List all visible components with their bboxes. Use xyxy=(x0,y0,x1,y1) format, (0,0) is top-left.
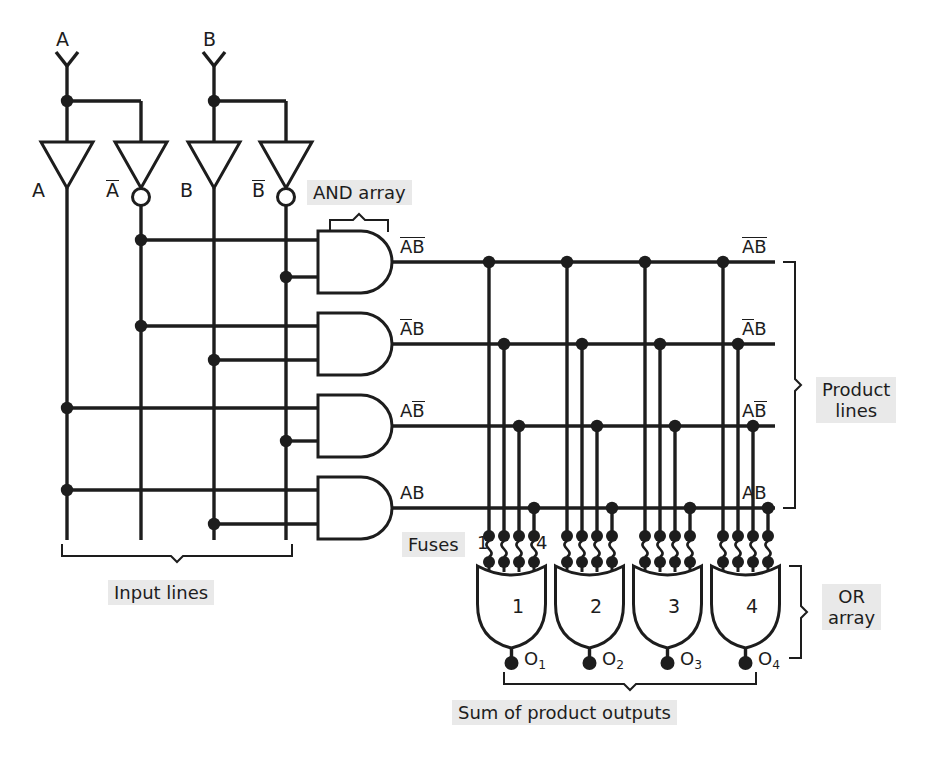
fuse-index-last: 4 xyxy=(536,532,547,553)
and-array-label: AND array xyxy=(307,180,412,205)
or-array-label: OR array xyxy=(822,584,881,630)
fuse-index-first: 1 xyxy=(477,532,488,553)
buffer-label-a: A xyxy=(32,179,45,201)
and-output-label-4: AB xyxy=(400,482,425,503)
input-pin-label-a: A xyxy=(56,28,69,50)
or-output-label-4: O4 xyxy=(758,648,780,672)
product-line-label-right-3: AB xyxy=(742,400,767,421)
sum-of-products-label: Sum of product outputs xyxy=(452,700,677,725)
product-line-label-right-1: AB xyxy=(742,236,767,257)
buffer-label-b-bar: B xyxy=(252,179,265,201)
or-gate-number-1: 1 xyxy=(512,595,524,617)
or-output-label-1: O1 xyxy=(524,648,546,672)
product-line-label-right-2: AB xyxy=(742,318,767,339)
buffer-label-b: B xyxy=(180,179,193,201)
or-gate-number-4: 4 xyxy=(746,595,758,617)
or-output-label-2: O2 xyxy=(602,648,624,672)
product-lines-label: Product lines xyxy=(816,377,896,423)
and-output-label-1: AB xyxy=(400,236,425,257)
product-line-label-right-4: AB xyxy=(742,482,767,503)
and-output-label-3: AB xyxy=(400,400,425,421)
buffer-label-a-bar: A xyxy=(106,179,119,201)
input-pin-label-b: B xyxy=(203,28,216,50)
or-gate-number-2: 2 xyxy=(590,595,602,617)
input-lines-label: Input lines xyxy=(108,580,214,605)
fuses-label: Fuses xyxy=(402,532,465,557)
circuit-schematic xyxy=(0,0,944,763)
and-output-label-2: AB xyxy=(400,318,425,339)
or-output-label-3: O3 xyxy=(680,648,702,672)
or-gate-number-3: 3 xyxy=(668,595,680,617)
pla-diagram: A B A A B B AND array AB AB AB AB AB AB … xyxy=(0,0,944,763)
